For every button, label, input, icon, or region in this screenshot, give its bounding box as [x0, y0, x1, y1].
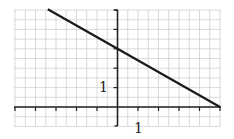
x-tick-label-1: 1 — [134, 120, 143, 136]
coordinate-plane: 1 1 — [0, 0, 234, 139]
y-tick-label-1: 1 — [99, 79, 108, 95]
